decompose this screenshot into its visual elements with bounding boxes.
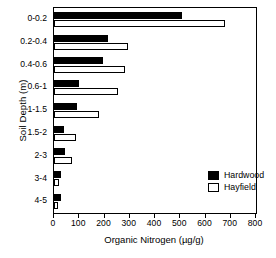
y-tick-label: 0-0.2 [8, 7, 50, 30]
bar-hayfield-1-1.5 [54, 111, 99, 118]
bar-hayfield-2-3 [54, 157, 72, 164]
x-axis-title: Organic Nitrogen (µg/g) [53, 234, 255, 245]
bar-hardwood-0.4-0.6 [54, 57, 103, 64]
bar-hayfield-0-0.2 [54, 20, 225, 27]
bar-hardwood-0-0.2 [54, 12, 182, 19]
y-tick-label: 0.2-0.4 [8, 30, 50, 53]
bar-group [54, 54, 256, 77]
chart-figure: Soil Depth (m) 0-0.2 0.2-0.4 0.4-0.6 0.6… [0, 0, 276, 258]
bar-hardwood-1.5-2 [54, 126, 64, 133]
x-tick-label: 600 [197, 219, 211, 228]
y-tick-label: 1-1.5 [8, 98, 50, 121]
bar-hardwood-3-4 [54, 171, 61, 178]
bar-hardwood-0.2-0.4 [54, 35, 108, 42]
y-tick-label: 3-4 [8, 166, 50, 189]
legend-swatch-icon-hardwood [208, 171, 219, 180]
bar-group [54, 190, 256, 213]
x-tick-label: 700 [223, 219, 237, 228]
bar-group [54, 122, 256, 145]
y-tick-label: 4-5 [8, 189, 50, 212]
x-tick-label: 0 [51, 219, 56, 228]
bar-hardwood-1-1.5 [54, 103, 77, 110]
bar-hayfield-3-4 [54, 179, 59, 186]
bar-hardwood-0.6-1 [54, 80, 79, 87]
bar-group [54, 99, 256, 122]
bar-group [54, 31, 256, 54]
x-tick-label: 100 [71, 219, 85, 228]
bar-hayfield-0.2-0.4 [54, 43, 128, 50]
legend-swatch-icon-hayfield [208, 183, 219, 192]
y-tick-label: 2-3 [8, 144, 50, 167]
bar-hardwood-2-3 [54, 148, 65, 155]
y-axis-tick-labels: 0-0.2 0.2-0.4 0.4-0.6 0.6-1 1-1.5 1.5-2 … [8, 7, 50, 212]
legend-label-hardwood: Hardwood [224, 171, 264, 180]
bar-group [54, 76, 256, 99]
bar-hayfield-0.6-1 [54, 88, 118, 95]
x-axis-tick-labels: 0100200300400500600700800 [53, 219, 257, 231]
legend-item-hayfield: Hayfield [208, 183, 264, 192]
y-tick-label: 0.4-0.6 [8, 53, 50, 76]
x-tick-label: 300 [122, 219, 136, 228]
chart-legend: Hardwood Hayfield [208, 171, 264, 192]
x-tick-label: 400 [147, 219, 161, 228]
x-tick-label: 200 [96, 219, 110, 228]
bar-hardwood-4-5 [54, 194, 61, 201]
x-tick-label: 500 [172, 219, 186, 228]
x-tick-label: 800 [248, 219, 262, 228]
plot-area: Hardwood Hayfield [53, 7, 257, 214]
legend-label-hayfield: Hayfield [224, 183, 256, 192]
legend-item-hardwood: Hardwood [208, 171, 264, 180]
bar-hayfield-1.5-2 [54, 134, 76, 141]
bar-hayfield-0.4-0.6 [54, 66, 125, 73]
bar-group [54, 145, 256, 168]
y-tick-label: 0.6-1 [8, 75, 50, 98]
bar-group [54, 8, 256, 31]
bar-hayfield-4-5 [54, 202, 58, 209]
y-tick-label: 1.5-2 [8, 121, 50, 144]
